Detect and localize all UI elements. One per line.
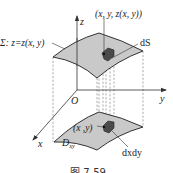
- surface-integral-diagram: z y x O Σ: z=z(x, y) (x, y, z(x, y)) dS …: [0, 0, 173, 173]
- point-in-region-label: (x ,y): [73, 123, 93, 134]
- ds-label: dS: [140, 37, 151, 48]
- y-axis-label: y: [159, 93, 165, 104]
- point-xy-dot: [103, 126, 105, 128]
- surface-sigma: [53, 33, 143, 78]
- region-subscript: xy: [68, 142, 75, 149]
- dxdy-label: dxdy: [122, 147, 142, 158]
- point-on-surface-label: (x, y, z(x, y)): [95, 9, 142, 20]
- x-axis-label: x: [37, 138, 43, 149]
- surface-equation-label: Σ: z=z(x, y): [0, 38, 45, 49]
- origin-label: O: [71, 95, 78, 106]
- point-surface-dot: [103, 53, 105, 55]
- z-axis-label: z: [79, 16, 84, 27]
- leader-surface-eq: [52, 43, 65, 49]
- figure-caption: 图 7-59: [70, 167, 106, 173]
